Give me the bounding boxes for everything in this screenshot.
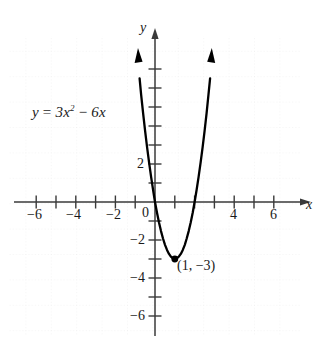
x-tick-label--6: −6: [27, 208, 42, 222]
x-tick-label--4: −4: [66, 208, 81, 222]
y-tick-label-2: 2: [137, 157, 144, 171]
equation-lhs: y: [32, 104, 39, 120]
equation-minus: −: [79, 104, 88, 120]
coordinate-plane: [0, 0, 317, 349]
equation-variable: x: [63, 104, 70, 120]
vertex-coordinate-label: (1, −3): [177, 259, 215, 273]
x-tick-label-4: 4: [230, 208, 237, 222]
equation-second-term: 6x: [91, 104, 106, 120]
x-tick-label-0: 0: [142, 206, 149, 220]
equation-coefficient: 3: [55, 104, 63, 120]
y-axis-label: y: [140, 21, 146, 35]
y-tick-label--2: −2: [130, 233, 145, 247]
x-tick-label-6: 6: [270, 208, 277, 222]
equation-equals: =: [43, 104, 52, 120]
y-tick-label--6: −6: [130, 309, 145, 323]
equation-exponent: 2: [70, 103, 75, 113]
x-tick-label--2: −2: [106, 208, 121, 222]
equation-annotation: y = 3x2 − 6x: [32, 104, 106, 120]
graph-figure: −6 −4 −2 0 4 6 2 −2 −4 −6 x y y = 3x2 − …: [0, 0, 317, 349]
y-tick-label--4: −4: [130, 271, 145, 285]
x-axis-label: x: [306, 198, 312, 212]
